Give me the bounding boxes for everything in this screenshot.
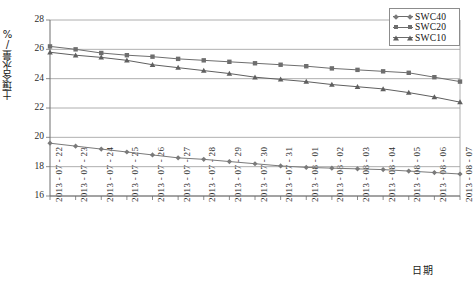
square-marker-icon — [432, 75, 436, 79]
square-marker-icon — [48, 44, 52, 48]
triangle-marker-icon — [393, 35, 399, 40]
chart-legend: SWC40 SWC20 SWC10 — [389, 8, 460, 46]
square-marker-icon — [407, 71, 411, 75]
square-marker-icon — [176, 57, 180, 61]
square-marker-icon — [227, 60, 231, 64]
diamond-marker-icon — [176, 155, 181, 160]
square-marker-icon — [330, 66, 334, 70]
diamond-marker-icon — [393, 14, 399, 20]
diamond-marker-icon — [407, 14, 413, 20]
diamond-marker-icon — [432, 170, 437, 175]
square-marker-icon — [381, 69, 385, 73]
legend-swatch-swc10 — [393, 33, 413, 42]
square-marker-icon — [99, 51, 103, 55]
x-tick-label: 2013 - 08 - 07 — [464, 147, 474, 202]
legend-item-swc20[interactable]: SWC20 — [393, 22, 457, 32]
diamond-marker-icon — [406, 168, 411, 173]
square-marker-icon — [202, 58, 206, 62]
triangle-marker-icon — [47, 49, 53, 54]
square-marker-icon — [125, 53, 129, 57]
diamond-marker-icon — [47, 141, 52, 146]
triangle-marker-icon — [407, 35, 413, 40]
diamond-marker-icon — [99, 146, 104, 151]
square-marker-icon — [73, 47, 77, 51]
square-marker-icon — [304, 64, 308, 68]
diamond-marker-icon — [381, 167, 386, 172]
legend-item-swc10[interactable]: SWC10 — [393, 33, 457, 43]
square-marker-icon — [253, 61, 257, 65]
diamond-marker-icon — [304, 165, 309, 170]
square-marker-icon — [394, 25, 398, 29]
square-marker-icon — [355, 68, 359, 72]
legend-label-swc20: SWC20 — [415, 22, 446, 32]
diamond-marker-icon — [227, 159, 232, 164]
legend-item-swc40[interactable]: SWC40 — [393, 12, 457, 22]
square-marker-icon — [150, 54, 154, 58]
square-marker-icon — [278, 63, 282, 67]
legend-swatch-swc20 — [393, 23, 413, 32]
legend-label-swc10: SWC10 — [415, 33, 446, 43]
diamond-marker-icon — [278, 163, 283, 168]
legend-label-swc40: SWC40 — [415, 12, 446, 22]
data-line-swc40 — [50, 143, 460, 174]
diamond-marker-icon — [150, 152, 155, 157]
legend-swatch-swc40 — [393, 12, 413, 21]
diamond-marker-icon — [252, 161, 257, 166]
square-marker-icon — [458, 79, 462, 83]
diamond-marker-icon — [201, 157, 206, 162]
diamond-marker-icon — [73, 144, 78, 149]
square-marker-icon — [408, 25, 412, 29]
diamond-marker-icon — [457, 171, 462, 176]
diamond-marker-icon — [124, 149, 129, 154]
